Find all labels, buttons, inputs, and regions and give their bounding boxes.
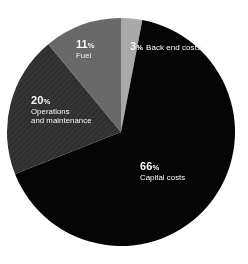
pie-category-capital-costs: Capital costs — [140, 173, 185, 182]
pie-label-back-end-costs: 3% Back end costs — [130, 40, 201, 53]
pie-chart: 3% Back end costs 11% Fuel 20% Operation… — [0, 0, 248, 264]
pie-value-fuel: 11% — [76, 38, 95, 51]
pie-graphic — [0, 0, 248, 264]
pie-label-fuel: 11% Fuel — [76, 38, 95, 60]
pie-label-operations-and-maintenance: 20% Operations and maintenance — [31, 94, 92, 125]
pie-svg — [0, 0, 248, 264]
pie-label-capital-costs: 66% Capital costs — [140, 160, 185, 182]
pie-value-operations-and-maintenance: 20% — [31, 94, 92, 107]
pie-value-back-end-costs: 3% — [130, 40, 143, 53]
pie-category-operations-and-maintenance: Operations and maintenance — [31, 107, 92, 125]
pie-category-back-end-costs: Back end costs — [146, 43, 201, 52]
pie-category-fuel: Fuel — [76, 51, 95, 60]
pie-value-capital-costs: 66% — [140, 160, 185, 173]
